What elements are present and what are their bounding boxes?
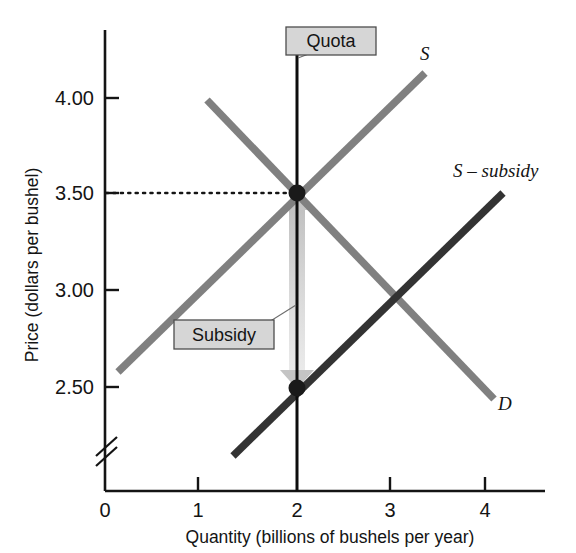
x-axis-ticks — [198, 477, 485, 491]
quota-callout: Quota — [286, 27, 376, 58]
x-tick-labels: 0 1 2 3 4 — [99, 499, 490, 521]
quota-callout-label: Quota — [306, 31, 356, 51]
supply-after-subsidy-curve-label: S – subsidy — [453, 160, 539, 181]
quota-price-point-marker — [289, 185, 306, 202]
y-axis-title: Price (dollars per bushel) — [22, 168, 42, 363]
subsidy-callout: Subsidy — [174, 305, 296, 349]
chart-canvas: 4.00 3.50 3.00 2.50 0 1 2 3 4 Price (dol… — [0, 0, 576, 553]
y-tick-labels: 4.00 3.50 3.00 2.50 — [55, 87, 94, 398]
x-tick-label-2: 2 — [291, 499, 302, 521]
x-tick-label-4: 4 — [479, 499, 490, 521]
y-tick-label-2-50: 2.50 — [55, 376, 94, 398]
supply-demand-chart: 4.00 3.50 3.00 2.50 0 1 2 3 4 Price (dol… — [0, 0, 576, 553]
x-tick-label-3: 3 — [384, 499, 395, 521]
y-axis-ticks — [105, 98, 119, 387]
x-tick-label-0: 0 — [99, 499, 110, 521]
y-tick-label-4-00: 4.00 — [55, 87, 94, 109]
x-tick-label-1: 1 — [192, 499, 203, 521]
y-axis-break-marks — [96, 437, 117, 466]
supply-curve-label: S — [420, 43, 430, 64]
y-tick-label-3-00: 3.00 — [55, 279, 94, 301]
subsidized-price-point-marker — [289, 380, 306, 397]
demand-curve-label: D — [497, 393, 512, 414]
y-tick-label-3-50: 3.50 — [55, 182, 94, 204]
x-axis-title: Quantity (billions of bushels per year) — [186, 527, 475, 547]
subsidy-callout-label: Subsidy — [192, 325, 256, 345]
axes-group — [96, 30, 545, 491]
